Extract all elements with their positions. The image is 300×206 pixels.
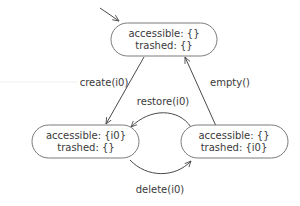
transition-create-label: create(i0)	[80, 77, 129, 88]
state-accessible-i0-trashed: trashed: {}	[57, 142, 114, 153]
initial-state-arrow	[100, 8, 119, 21]
state-diagram: create(i0) empty() restore(i0) delete(i0…	[0, 0, 300, 206]
state-accessible-i0-accessible: accessible: {i0}	[46, 130, 126, 141]
transition-restore-label: restore(i0)	[137, 96, 189, 107]
state-accessible-i0: accessible: {i0} trashed: {}	[32, 125, 139, 158]
transition-create-arrow	[106, 57, 144, 124]
state-initial-trashed: trashed: {}	[135, 40, 192, 51]
state-initial: accessible: {} trashed: {}	[111, 23, 217, 56]
state-trashed-i0-accessible: accessible: {}	[198, 130, 269, 141]
transition-delete-label: delete(i0)	[136, 184, 185, 195]
transition-empty-arrow	[185, 57, 216, 126]
transition-empty-label: empty()	[210, 77, 250, 88]
state-trashed-i0: accessible: {} trashed: {i0}	[181, 125, 288, 158]
transition-delete-arrow	[130, 160, 191, 174]
state-initial-accessible: accessible: {}	[128, 28, 199, 39]
state-trashed-i0-trashed: trashed: {i0}	[201, 142, 268, 153]
transition-restore-arrow	[131, 113, 191, 127]
